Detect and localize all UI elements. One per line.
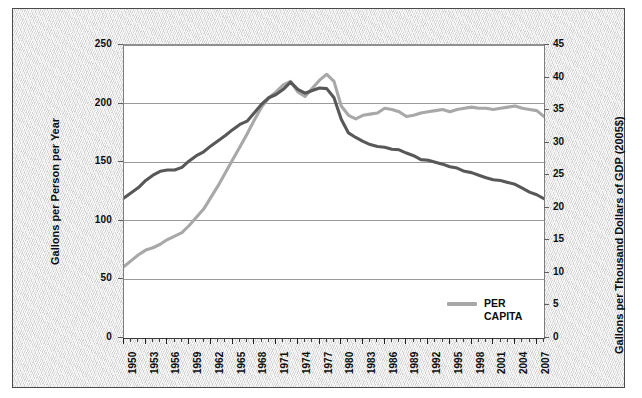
x-tick-label: 1977 bbox=[323, 352, 334, 374]
x-tick-label: 1983 bbox=[366, 352, 377, 374]
legend-swatch-per-capita bbox=[447, 302, 477, 306]
plot-area bbox=[123, 44, 545, 339]
x-tick bbox=[434, 338, 435, 342]
x-tick bbox=[181, 338, 182, 342]
y-axis-left-title: Gallons per Person per Year bbox=[49, 118, 61, 265]
y-tick-label-right: 45 bbox=[553, 38, 575, 49]
x-tick-label: 1953 bbox=[149, 352, 160, 374]
y-tick-right bbox=[544, 337, 549, 338]
x-tick bbox=[405, 338, 406, 344]
x-tick bbox=[290, 338, 291, 342]
x-tick bbox=[456, 338, 457, 342]
y-tick-label-left: 50 bbox=[78, 272, 112, 283]
x-tick bbox=[391, 338, 392, 342]
x-tick-label: 1971 bbox=[279, 352, 290, 374]
x-tick bbox=[123, 338, 124, 344]
x-tick bbox=[275, 338, 276, 344]
y-tick-right bbox=[544, 174, 549, 175]
x-tick bbox=[376, 338, 377, 342]
x-tick bbox=[253, 338, 254, 344]
x-tick-label: 1959 bbox=[192, 352, 203, 374]
x-tick-label: 1992 bbox=[431, 352, 442, 374]
x-tick-label: 2004 bbox=[518, 352, 529, 374]
x-tick-label: 1962 bbox=[214, 352, 225, 374]
y-tick-label-right: 25 bbox=[553, 168, 575, 179]
x-tick bbox=[326, 338, 327, 342]
x-tick bbox=[261, 338, 262, 342]
x-tick bbox=[319, 338, 320, 344]
x-tick bbox=[333, 338, 334, 342]
x-tick bbox=[398, 338, 399, 342]
x-tick bbox=[521, 338, 522, 342]
x-tick bbox=[543, 338, 544, 342]
plot-svg bbox=[124, 45, 544, 338]
y-tick-right bbox=[544, 207, 549, 208]
y-tick-left bbox=[118, 44, 123, 45]
x-tick bbox=[195, 338, 196, 342]
y-tick-label-left: 100 bbox=[78, 214, 112, 225]
x-tick bbox=[492, 338, 493, 344]
x-tick bbox=[159, 338, 160, 342]
series-line-gdp-intensity bbox=[124, 82, 544, 199]
x-tick bbox=[174, 338, 175, 342]
y-tick-label-right: 5 bbox=[553, 298, 575, 309]
y-tick-right bbox=[544, 44, 549, 45]
x-tick-label: 1998 bbox=[475, 352, 486, 374]
x-tick bbox=[304, 338, 305, 342]
x-tick bbox=[347, 338, 348, 342]
y-tick-label-right: 40 bbox=[553, 71, 575, 82]
x-tick bbox=[384, 338, 385, 344]
chart-page: Gallons per Person per Year Gallons per … bbox=[0, 0, 642, 398]
y-axis-right-title: Gallons per Thousand Dollars of GDP (200… bbox=[613, 116, 625, 354]
x-tick bbox=[166, 338, 167, 344]
y-tick-label-left: 250 bbox=[78, 38, 112, 49]
x-tick bbox=[297, 338, 298, 344]
x-tick bbox=[355, 338, 356, 342]
x-tick bbox=[203, 338, 204, 342]
chart-frame: Gallons per Person per Year Gallons per … bbox=[12, 8, 625, 388]
x-tick bbox=[232, 338, 233, 344]
y-tick-label-left: 0 bbox=[78, 331, 112, 342]
x-tick bbox=[340, 338, 341, 344]
y-tick-right bbox=[544, 272, 549, 273]
x-tick bbox=[210, 338, 211, 344]
x-tick-label: 1980 bbox=[344, 352, 355, 374]
y-tick-right bbox=[544, 109, 549, 110]
y-tick-left bbox=[118, 278, 123, 279]
x-tick-label: 1956 bbox=[170, 352, 181, 374]
y-tick-right bbox=[544, 142, 549, 143]
x-tick bbox=[282, 338, 283, 342]
x-tick-label: 1995 bbox=[453, 352, 464, 374]
y-tick-label-right: 35 bbox=[553, 103, 575, 114]
x-tick-label: 1989 bbox=[409, 352, 420, 374]
y-tick-right bbox=[544, 239, 549, 240]
x-tick-label: 1965 bbox=[236, 352, 247, 374]
legend-label-per-capita: PER CAPITA bbox=[484, 297, 522, 322]
x-tick bbox=[217, 338, 218, 342]
y-tick-right bbox=[544, 304, 549, 305]
x-tick bbox=[246, 338, 247, 342]
x-tick bbox=[268, 338, 269, 342]
x-tick bbox=[507, 338, 508, 342]
x-tick bbox=[130, 338, 131, 342]
x-tick bbox=[536, 338, 537, 344]
y-tick-label-left: 200 bbox=[78, 97, 112, 108]
y-tick-left bbox=[118, 220, 123, 221]
y-tick-label-left: 150 bbox=[78, 155, 112, 166]
x-tick bbox=[514, 338, 515, 344]
x-tick-label: 1968 bbox=[257, 352, 268, 374]
x-tick bbox=[239, 338, 240, 342]
x-tick bbox=[362, 338, 363, 344]
x-tick bbox=[188, 338, 189, 344]
x-tick bbox=[152, 338, 153, 342]
y-tick-label-right: 20 bbox=[553, 201, 575, 212]
x-tick-label: 2001 bbox=[496, 352, 507, 374]
y-tick-label-right: 0 bbox=[553, 331, 575, 342]
x-tick bbox=[413, 338, 414, 342]
x-tick bbox=[500, 338, 501, 342]
x-tick-label: 1950 bbox=[127, 352, 138, 374]
y-tick-left bbox=[118, 103, 123, 104]
y-tick-right bbox=[544, 77, 549, 78]
legend: PER CAPITA bbox=[447, 297, 522, 322]
x-tick bbox=[485, 338, 486, 342]
